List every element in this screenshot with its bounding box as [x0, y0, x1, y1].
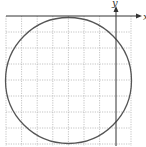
y-axis-arrow-icon — [114, 6, 119, 12]
circle-diagram — [0, 0, 146, 147]
x-axis-arrow-icon — [136, 14, 142, 19]
y-axis — [114, 6, 119, 146]
